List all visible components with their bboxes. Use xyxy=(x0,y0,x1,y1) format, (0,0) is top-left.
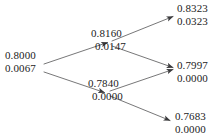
node-mid-lower: 0.7840 0.0000 xyxy=(88,77,123,102)
node-leaf-middle: 0.7997 0.0000 xyxy=(177,59,208,84)
lattice-diagram: 0.8000 0.0067 0.8160 0.0147 0.7840 0.000… xyxy=(0,0,220,140)
node-mid-lower-value-top: 0.7840 xyxy=(88,77,123,90)
node-mid-upper: 0.8160 0.0147 xyxy=(91,27,126,52)
node-leaf-top-value-top: 0.8323 xyxy=(177,2,208,15)
node-mid-upper-value-bottom: 0.0147 xyxy=(95,40,126,53)
node-root: 0.8000 0.0067 xyxy=(5,49,36,74)
node-leaf-top-value-bottom: 0.0323 xyxy=(177,15,208,28)
node-leaf-middle-value-top: 0.7997 xyxy=(177,59,208,72)
node-leaf-top: 0.8323 0.0323 xyxy=(177,2,208,27)
node-leaf-bottom-value-bottom: 0.0000 xyxy=(175,123,206,136)
node-mid-upper-value-top: 0.8160 xyxy=(91,27,126,40)
node-root-value-top: 0.8000 xyxy=(5,49,36,62)
node-leaf-bottom: 0.7683 0.0000 xyxy=(175,110,206,135)
node-leaf-middle-value-bottom: 0.0000 xyxy=(177,72,208,85)
node-leaf-bottom-value-top: 0.7683 xyxy=(175,110,206,123)
node-root-value-bottom: 0.0067 xyxy=(5,62,36,75)
node-mid-lower-value-bottom: 0.0000 xyxy=(92,90,123,103)
